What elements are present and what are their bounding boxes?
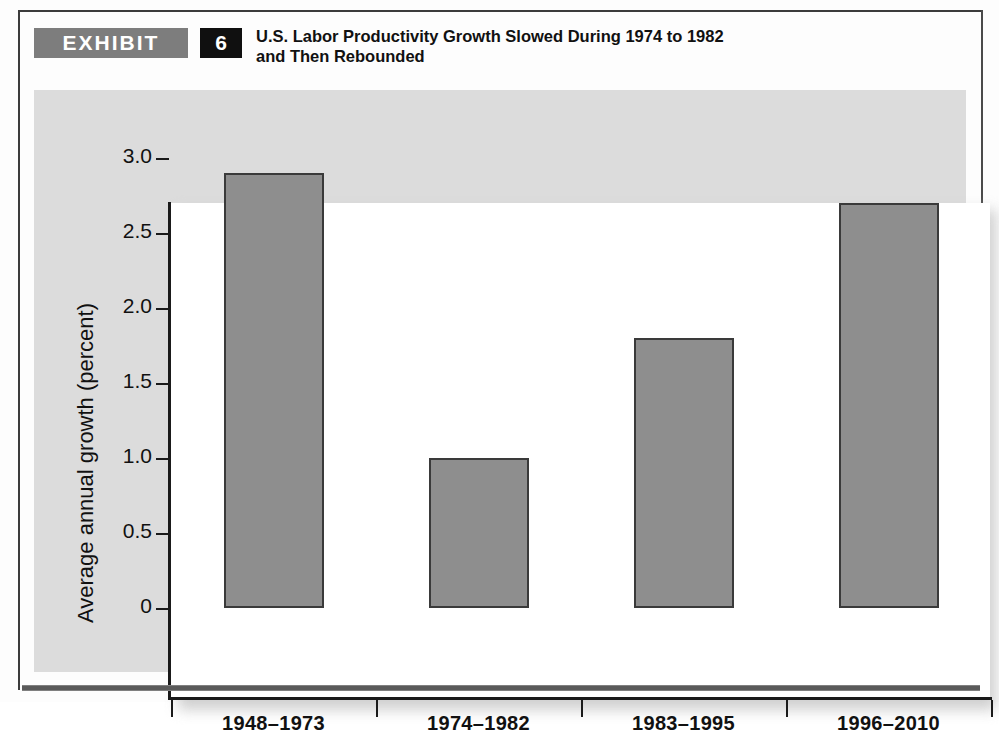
page-border-left: [18, 10, 20, 690]
y-axis-tick-label: 2.5: [42, 219, 152, 243]
x-axis-category-label: 1974–1982: [376, 712, 581, 734]
y-axis-tick: [156, 308, 169, 310]
bar: [839, 203, 939, 608]
chart-panel: 00.51.01.52.02.53.0 1948–19731974–198219…: [34, 90, 966, 672]
x-axis-line: [168, 697, 992, 700]
exhibit-number-badge: 6: [200, 28, 242, 58]
page-bottom-rule: [22, 685, 980, 691]
x-axis-category-label: 1948–1973: [171, 712, 376, 734]
page-border-top: [18, 10, 983, 12]
y-axis-title: Average annual growth (percent): [73, 243, 99, 683]
x-axis-category-label: 1996–2010: [786, 712, 991, 734]
y-axis-tick: [156, 233, 169, 235]
exhibit-title-line-2: and Then Rebounded: [256, 46, 956, 66]
exhibit-header: EXHIBIT 6 U.S. Labor Productivity Growth…: [34, 26, 964, 78]
exhibit-title: U.S. Labor Productivity Growth Slowed Du…: [256, 26, 956, 66]
bar: [429, 458, 529, 608]
y-axis-tick: [156, 533, 169, 535]
bar: [224, 173, 324, 608]
x-axis-category-label: 1983–1995: [581, 712, 786, 734]
y-axis-tick: [156, 458, 169, 460]
bar: [634, 338, 734, 608]
y-axis-tick: [156, 608, 169, 610]
y-axis-tick: [156, 158, 169, 160]
y-axis-tick-label: 3.0: [42, 144, 152, 168]
exhibit-tag: EXHIBIT: [34, 28, 188, 58]
x-axis-tick: [991, 700, 993, 717]
exhibit-title-line-1: U.S. Labor Productivity Growth Slowed Du…: [256, 27, 724, 45]
y-axis-tick: [156, 383, 169, 385]
y-axis-line: [168, 202, 171, 700]
